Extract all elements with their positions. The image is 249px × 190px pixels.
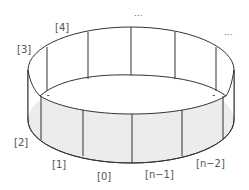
label-ellipsis-top: ··· bbox=[134, 11, 143, 21]
label-slot-2: [2] bbox=[14, 137, 28, 148]
label-slot-n-minus-2: [n−2] bbox=[196, 158, 225, 169]
label-ellipsis-right: ··· bbox=[224, 30, 233, 40]
circular-buffer-diagram: [3] [4] ··· ··· [2] [1] [0] [n−1] [n−2] bbox=[0, 0, 249, 190]
label-slot-3: [3] bbox=[17, 44, 31, 55]
label-slot-4: [4] bbox=[55, 22, 69, 33]
label-slot-n-minus-1: [n−1] bbox=[145, 169, 174, 180]
label-slot-1: [1] bbox=[52, 159, 66, 170]
label-slot-0: [0] bbox=[97, 171, 111, 182]
